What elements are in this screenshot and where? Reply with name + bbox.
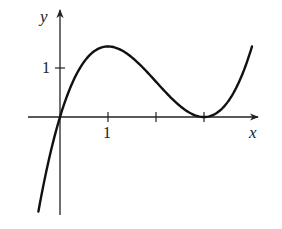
x-axis-label: x — [248, 123, 257, 142]
x-tick-label-1: 1 — [103, 124, 111, 141]
y-tick-label-1: 1 — [42, 59, 50, 76]
y-axis-label: y — [38, 7, 48, 26]
function-graph: y x 1 1 — [0, 0, 282, 229]
function-curve — [38, 46, 252, 211]
